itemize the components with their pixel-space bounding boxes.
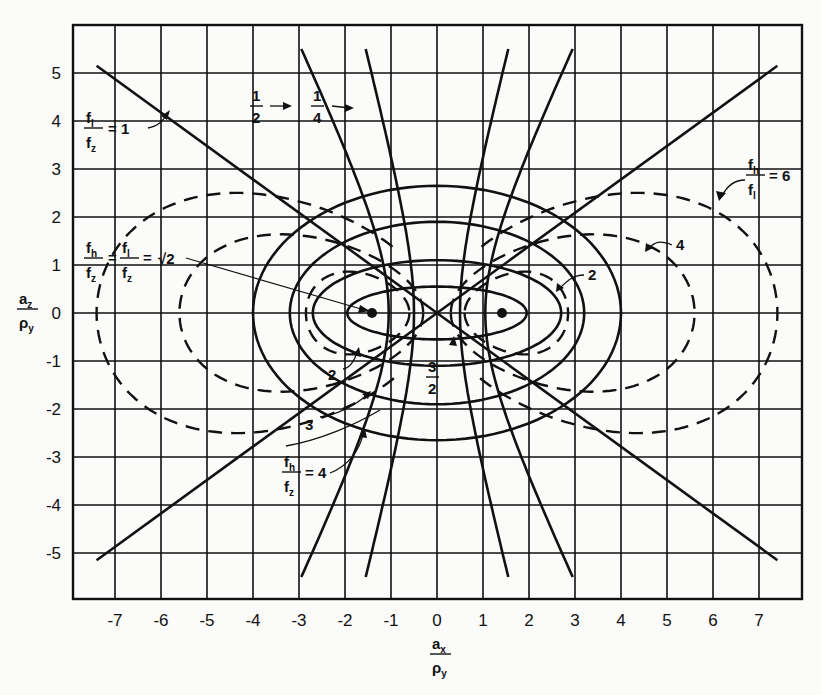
x-tick-label: 4 (616, 611, 625, 630)
y-tick-label: 2 (52, 208, 61, 227)
y-tick-label: 5 (52, 64, 61, 83)
label-two-left: 2 (328, 366, 336, 383)
svg-text:4: 4 (313, 109, 322, 126)
leader-lines (148, 106, 745, 473)
svg-text:fh: fh (284, 453, 295, 473)
svg-text:fz: fz (86, 134, 96, 154)
svg-text:= 4: = 4 (305, 464, 327, 481)
x-tick-label: -4 (245, 611, 260, 630)
y-tick-label: 0 (52, 304, 61, 323)
x-tick-label: 7 (754, 611, 763, 630)
svg-text:fh: fh (748, 156, 759, 176)
x-tick-label: -5 (199, 611, 214, 630)
svg-text:fl: fl (122, 239, 130, 259)
y-tick-label: -1 (46, 352, 61, 371)
svg-text:fl: fl (86, 109, 94, 129)
x-tick-label: -1 (383, 611, 398, 630)
svg-text:√2: √2 (158, 250, 175, 267)
svg-text:ρy: ρy (432, 659, 447, 679)
svg-text:az: az (19, 290, 32, 310)
y-tick-label: 4 (52, 112, 61, 131)
svg-text:1: 1 (313, 87, 321, 104)
label-four-right: 4 (676, 236, 685, 253)
svg-text:fl: fl (748, 181, 756, 201)
label-fh-fl-6: fh fl = 6 (746, 156, 790, 201)
x-tick-label: -6 (153, 611, 168, 630)
y-tick-label: -4 (46, 496, 61, 515)
svg-text:= 1: = 1 (108, 120, 129, 137)
chart: -7-6-5-4-3-2-101234567 543210-1-2-3-4-5 … (0, 0, 821, 695)
label-fh-fz-4: fh fz = 4 (282, 453, 327, 498)
x-tick-label: 6 (708, 611, 717, 630)
svg-text:1: 1 (252, 87, 260, 104)
y-tick-label: -3 (46, 448, 61, 467)
y-tick-label: 1 (52, 256, 61, 275)
svg-text:=: = (143, 249, 152, 266)
svg-text:fz: fz (86, 264, 96, 284)
label-three: 3 (305, 416, 313, 433)
svg-text:ρy: ρy (19, 314, 34, 334)
x-tick-label: -2 (337, 611, 352, 630)
svg-text:2: 2 (252, 109, 260, 126)
x-tick-label: 2 (524, 611, 533, 630)
x-axis-title: ax ρy (430, 635, 451, 679)
x-tick-label: 5 (662, 611, 671, 630)
x-tick-labels: -7-6-5-4-3-2-101234567 (107, 611, 763, 630)
svg-text:ax: ax (432, 635, 446, 655)
svg-text:= 6: = 6 (769, 167, 790, 184)
label-fl-fz-1: fl fz = 1 (84, 109, 129, 154)
label-half: 1 2 (250, 87, 263, 126)
svg-text:2: 2 (428, 380, 436, 397)
svg-text:=: = (108, 249, 117, 266)
svg-text:fz: fz (284, 478, 294, 498)
x-tick-label: -7 (107, 611, 122, 630)
y-tick-labels: 543210-1-2-3-4-5 (46, 64, 61, 563)
svg-text:fh: fh (86, 239, 97, 259)
svg-text:fz: fz (122, 264, 132, 284)
x-tick-label: 1 (478, 611, 487, 630)
svg-text:3: 3 (428, 358, 436, 375)
y-axis-title: az ρy (17, 290, 38, 334)
label-two-right: 2 (588, 266, 596, 283)
x-tick-label: 3 (570, 611, 579, 630)
x-tick-label: 0 (432, 611, 441, 630)
focus-right-marker (497, 308, 507, 318)
y-tick-label: -5 (46, 544, 61, 563)
x-tick-label: -3 (291, 611, 306, 630)
focus-left-marker (367, 308, 377, 318)
y-tick-label: 3 (52, 160, 61, 179)
y-tick-label: -2 (46, 400, 61, 419)
